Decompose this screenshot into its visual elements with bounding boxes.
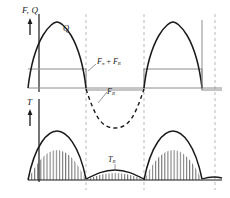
curve-q-label: Q (63, 24, 69, 33)
curve-fr-lobe (86, 83, 144, 99)
curve-q-second (144, 22, 202, 88)
period-gridlines (86, 14, 215, 190)
curve-fr-dashed-main (86, 89, 144, 128)
dashed-curve-label: FR (107, 88, 115, 97)
figure-panel: F, Q Q Fn + FR FR T TR (0, 0, 230, 198)
lower-axis-label: T (27, 98, 32, 107)
step-line-label-op: + (104, 57, 113, 66)
leader-fr (98, 92, 107, 103)
torque-small-label-sub: R (112, 159, 115, 164)
lower-arrow-head (28, 109, 33, 115)
dashed-curve-label-sub: R (112, 91, 115, 96)
torque-small-label: TR (108, 156, 115, 165)
curve-q (28, 22, 86, 88)
upper-arrow-head (28, 18, 33, 24)
hatch-hump-2 (144, 118, 202, 180)
step-line-fn-fr (28, 69, 222, 90)
leader-fn-fr (88, 64, 96, 71)
upper-panel (28, 14, 222, 128)
step-line-label: Fn + FR (97, 58, 121, 67)
diagram-canvas (0, 0, 230, 198)
lower-panel (28, 99, 222, 182)
hatch-hump-1 (28, 118, 86, 180)
curve-torque-small-2 (202, 177, 222, 179)
upper-axis-label: F, Q (22, 6, 38, 15)
step-line-label-sub2: R (118, 61, 121, 66)
